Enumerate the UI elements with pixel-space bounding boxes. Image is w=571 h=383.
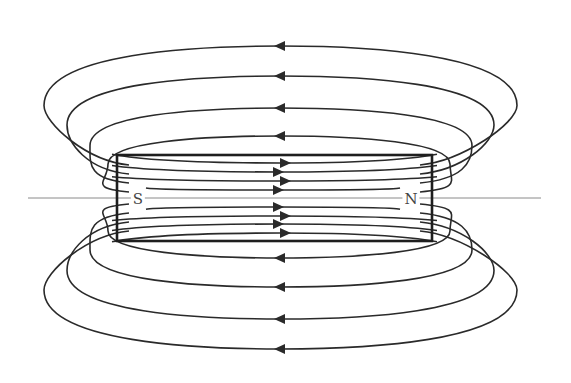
arrow-left-icon — [274, 344, 285, 354]
arrow-right-icon — [280, 158, 291, 168]
field-lines-canvas — [0, 0, 571, 383]
arrow-right-icon — [280, 228, 291, 238]
arrow-right-icon — [273, 167, 284, 177]
arrow-right-icon — [273, 202, 284, 212]
arrow-left-icon — [274, 253, 285, 263]
arrow-left-icon — [274, 282, 285, 292]
arrow-right-icon — [273, 185, 284, 195]
field-line-inner — [112, 177, 437, 181]
arrow-right-icon — [280, 176, 291, 186]
arrow-left-icon — [274, 103, 285, 113]
arrow-right-icon — [280, 211, 291, 221]
field-loop-top — [103, 136, 452, 192]
magnet-field-diagram: S N — [0, 0, 571, 383]
arrow-left-icon — [274, 71, 285, 81]
north-pole-label: N — [402, 191, 419, 207]
arrow-left-icon — [274, 314, 285, 324]
field-loop-bottom — [103, 204, 452, 258]
arrow-right-icon — [273, 219, 284, 229]
field-loop-bottom — [44, 231, 517, 349]
arrow-left-icon — [274, 131, 285, 141]
arrow-left-icon — [274, 41, 285, 51]
south-pole-label: S — [131, 191, 145, 207]
